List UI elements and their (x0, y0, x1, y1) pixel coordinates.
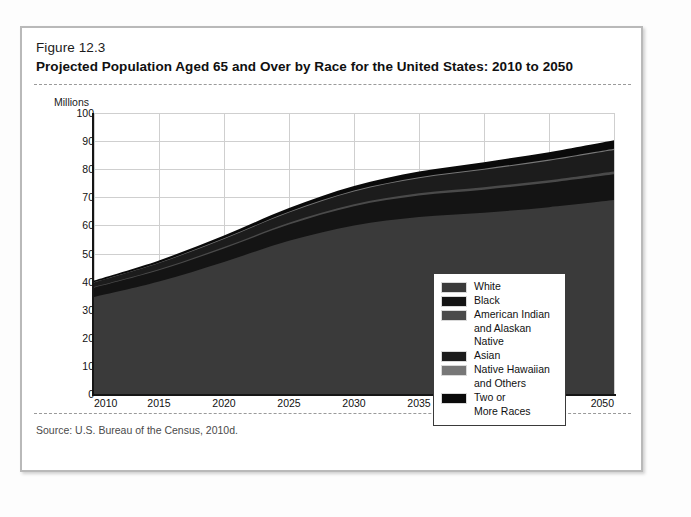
legend-item: Two or (441, 391, 559, 404)
legend-item-label: Two or (474, 391, 506, 404)
legend-item-label-line2: and Alaskan Native (474, 322, 559, 348)
legend-swatch-spacer (441, 407, 467, 418)
figure-card: Figure 12.3 Projected Population Aged 65… (20, 26, 643, 472)
x-axis-tick-label: 2025 (277, 397, 300, 409)
y-axis-tick-label: 0 (60, 389, 94, 400)
y-axis-tick-label: 80 (60, 164, 94, 175)
x-axis-tick-label: 2035 (407, 397, 430, 409)
y-axis-tick-label: 70 (60, 192, 94, 203)
legend-item-label: American Indian (474, 308, 550, 321)
y-axis-tick-label: 100 (60, 108, 94, 119)
y-axis-tick-label: 10 (60, 361, 94, 372)
figure-page: Figure 12.3 Projected Population Aged 65… (0, 0, 691, 517)
x-axis-tick-label: 2050 (591, 397, 614, 409)
legend-swatch-icon (441, 282, 467, 293)
legend-item: Native Hawaiian (441, 363, 559, 376)
legend-item-label-line2: and Others (474, 377, 526, 390)
legend-item-continuation: and Others (441, 377, 559, 390)
gridline-vertical (614, 113, 615, 394)
legend-item-continuation: More Races (441, 405, 559, 418)
y-axis-tick-label: 30 (60, 305, 94, 316)
figure-title: Projected Population Aged 65 and Over by… (36, 59, 573, 74)
y-axis-tick-label: 50 (60, 249, 94, 260)
y-axis-tick-label: 20 (60, 333, 94, 344)
x-axis-tick-label: 2015 (147, 397, 170, 409)
x-axis-tick-label: 2030 (342, 397, 365, 409)
legend-swatch-icon (441, 310, 467, 321)
legend-swatch-icon (441, 365, 467, 376)
legend-item: American Indian (441, 308, 559, 321)
legend-item-continuation: and Alaskan Native (441, 322, 559, 348)
legend-swatch-icon (441, 351, 467, 362)
legend-item-label: Black (474, 294, 500, 307)
legend-swatch-spacer (441, 379, 467, 390)
legend-item-label: White (474, 280, 501, 293)
legend-item: Asian (441, 349, 559, 362)
legend-item-label: Native Hawaiian (474, 363, 550, 376)
legend-item: White (441, 280, 559, 293)
chart-container: Millions 1009080706050403020100 20102015… (36, 96, 631, 406)
chart-legend: WhiteBlackAmerican Indianand Alaskan Nat… (433, 273, 566, 426)
y-axis-tick-label: 90 (60, 136, 94, 147)
legend-item-label: Asian (474, 349, 500, 362)
legend-swatch-icon (441, 296, 467, 307)
legend-swatch-spacer (441, 324, 467, 335)
legend-item: Black (441, 294, 559, 307)
y-axis-tick-label: 40 (60, 277, 94, 288)
legend-item-label-line2: More Races (474, 405, 531, 418)
x-axis-tick-label: 2020 (212, 397, 235, 409)
source-note: Source: U.S. Bureau of the Census, 2010d… (36, 424, 238, 436)
figure-number: Figure 12.3 (36, 40, 105, 55)
divider-top (34, 84, 631, 85)
x-axis-tick-label: 2010 (94, 397, 117, 409)
y-axis-tick-label: 60 (60, 220, 94, 231)
legend-swatch-icon (441, 393, 467, 404)
